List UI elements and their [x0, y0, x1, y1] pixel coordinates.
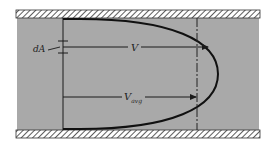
- fluid-region: [17, 18, 259, 130]
- top-pipe-wall: [16, 10, 260, 18]
- area-element-label: dA: [33, 44, 46, 54]
- pipe-flow-diagram: dA V Vavg: [0, 0, 276, 154]
- bottom-pipe-wall: [16, 130, 260, 138]
